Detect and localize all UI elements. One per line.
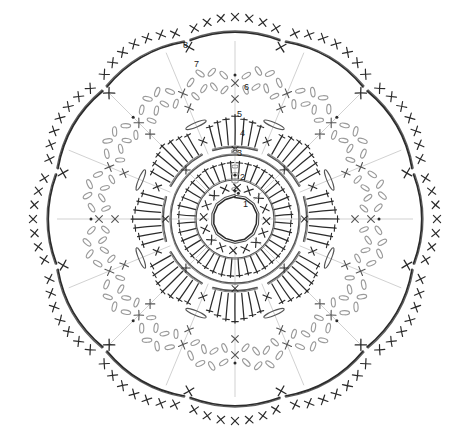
round-label-8: 8 [183,40,188,50]
round-label-6: 6 [244,82,249,92]
round-label-1: 1 [243,199,248,209]
round-label-7: 7 [194,59,199,69]
round-label-2: 2 [240,172,245,182]
crochet-diagram-svg: 12345678 [0,0,468,438]
crochet-chart-canvas: 12345678 [0,0,468,438]
round-label-3: 3 [237,148,242,158]
round-label-4: 4 [240,128,245,138]
round-label-5: 5 [237,109,242,119]
